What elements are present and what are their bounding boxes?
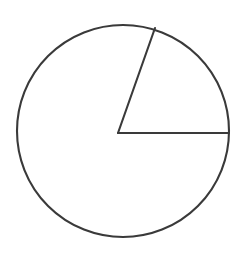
circle-outline xyxy=(17,25,229,237)
pie-chart-svg xyxy=(0,0,245,256)
figure-canvas xyxy=(0,0,245,256)
